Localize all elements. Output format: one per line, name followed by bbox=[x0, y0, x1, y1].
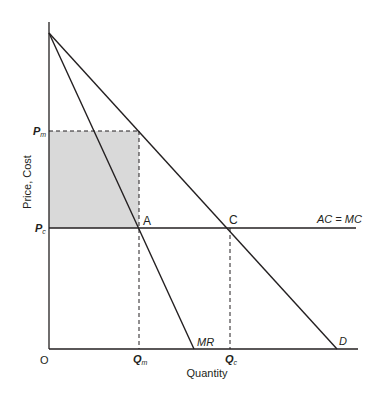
monopoly-diagram: Price, Cost Pm Pc A C AC = MC MR D O Qm … bbox=[0, 0, 375, 395]
point-a-label: A bbox=[143, 214, 151, 228]
qm-label: Qm bbox=[133, 353, 148, 366]
mr-label: MR bbox=[197, 336, 214, 348]
qc-label: Qc bbox=[225, 353, 238, 366]
shaded-profit-area bbox=[49, 131, 139, 228]
pc-label: Pc bbox=[35, 222, 46, 235]
pm-label: Pm bbox=[33, 125, 46, 138]
demand-label: D bbox=[339, 335, 347, 347]
y-axis-label: Price, Cost bbox=[21, 155, 33, 209]
x-axis-label: Quantity bbox=[187, 367, 228, 379]
ac-mc-label: AC = MC bbox=[316, 213, 362, 225]
point-c-label: C bbox=[229, 213, 238, 227]
origin-label: O bbox=[40, 354, 49, 366]
